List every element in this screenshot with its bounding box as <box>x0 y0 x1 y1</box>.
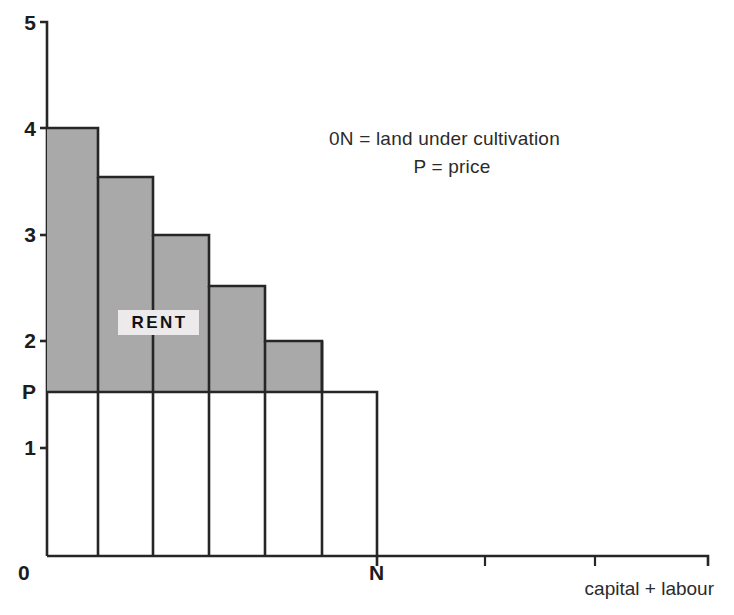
origin-label: 0 <box>18 562 30 583</box>
legend-line-land-under-cultivation: 0N = land under cultivation <box>329 124 560 153</box>
y-tick-label-5: 5 <box>14 12 36 33</box>
chart-plot-area <box>0 0 734 615</box>
y-tick-label-1: 1 <box>14 437 36 458</box>
rent-diagram-figure: 5 4 3 2 P 1 0 N capital + labour 0N = la… <box>0 0 734 615</box>
bar-rent-2 <box>98 177 153 392</box>
rent-annotation-label: RENT <box>118 310 199 335</box>
bars-group <box>47 128 322 392</box>
x-axis-caption: capital + labour <box>585 578 714 600</box>
bar-rent-4 <box>209 286 265 392</box>
y-tick-label-4: 4 <box>14 118 36 139</box>
y-tick-label-2: 2 <box>14 330 36 351</box>
bar-rent-1 <box>47 128 98 392</box>
price-line-P <box>47 392 377 556</box>
y-axis-price-label: P <box>14 381 36 402</box>
legend-line-price: P = price <box>329 152 575 181</box>
bar-rent-5 <box>265 341 322 392</box>
x-marker-label-N: N <box>369 562 384 583</box>
y-axis <box>40 22 47 556</box>
price-line-group <box>47 392 377 556</box>
y-axis-line <box>40 22 47 556</box>
y-tick-label-3: 3 <box>14 224 36 245</box>
